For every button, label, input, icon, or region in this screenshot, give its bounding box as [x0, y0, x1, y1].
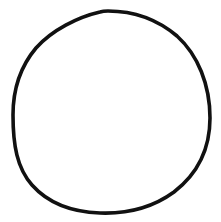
hand-drawn-circle-stroke — [13, 11, 210, 213]
drawing-canvas — [0, 0, 221, 222]
circle-drawing — [0, 0, 221, 222]
